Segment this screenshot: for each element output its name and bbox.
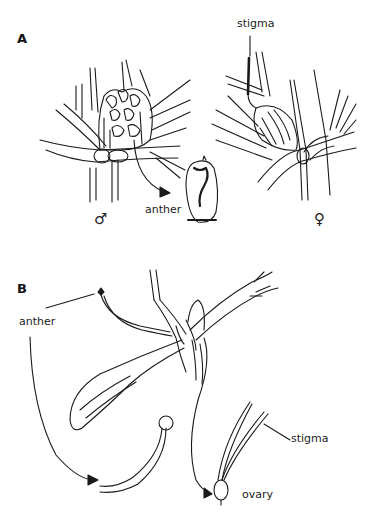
panel-label-a: A bbox=[17, 31, 27, 46]
female-flower-drawing bbox=[212, 36, 356, 200]
male-flower-drawing bbox=[40, 60, 190, 202]
pollination-drawing bbox=[30, 270, 290, 505]
label-stigma-a: stigma bbox=[237, 17, 275, 30]
panel-label-b: B bbox=[17, 281, 27, 296]
male-symbol-icon: ♂ bbox=[94, 210, 107, 228]
botanical-illustration bbox=[0, 0, 373, 531]
label-ovary-b: ovary bbox=[242, 488, 273, 501]
anther-enlarged-drawing bbox=[186, 156, 218, 222]
label-stigma-b: stigma bbox=[291, 432, 329, 445]
female-symbol-icon: ♀ bbox=[314, 210, 325, 228]
label-anther-a: anther bbox=[145, 203, 181, 216]
label-anther-b: anther bbox=[19, 315, 55, 328]
